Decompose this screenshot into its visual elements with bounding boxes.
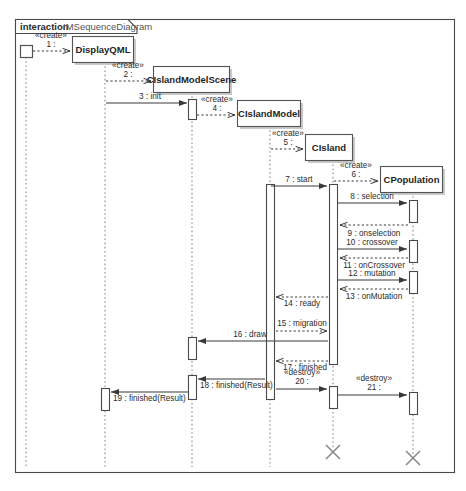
message-5-label: 5 : (283, 138, 292, 147)
message-7-label: 7 : start (285, 175, 313, 184)
activation-cpopulation-destroy (410, 393, 418, 415)
message-2-stereotype: «create» (112, 61, 144, 70)
lifeline-label: CIslandModel (238, 108, 300, 119)
activation-cpopulation-mutation (410, 272, 418, 294)
lifeline-label: CIsland (312, 142, 347, 153)
message-4-stereotype: «create» (201, 95, 233, 104)
actor-square-icon (21, 46, 33, 58)
message-15-label: 15 : migration (277, 319, 327, 328)
message-18[interactable]: 18 : finished(Result) (198, 379, 273, 390)
message-8-label: 8 : selection (350, 192, 394, 201)
lifeline-label: DisplayQML (76, 44, 131, 55)
frame-name: IMSequenceDiagram (63, 21, 152, 32)
lifeline-head-cpopulation[interactable]: CPopulation (381, 167, 446, 196)
message-12-label: 12 : mutation (348, 269, 396, 278)
lifeline-head-actor[interactable] (21, 46, 33, 58)
message-13-label: 13 : onMutation (346, 292, 403, 301)
lifeline-head-cislandmodelscene[interactable]: CIslandModelScene (147, 67, 237, 96)
message-19-label: 19 : finished(Result) (113, 394, 186, 403)
message-9-label: 9 : onselection (348, 229, 401, 238)
sequence-diagram: interaction IMSequenceDiagram DisplayQML… (0, 0, 466, 491)
message-19[interactable]: 19 : finished(Result) (111, 392, 188, 403)
lifeline-head-cislandmodel[interactable]: CIslandModel (238, 101, 304, 130)
message-14-label: 14 : ready (284, 299, 321, 308)
message-6-label: 6 : (351, 170, 360, 179)
message-20-label: 20 : (295, 377, 309, 386)
activation-cisland-main (330, 185, 338, 365)
message-18-label: 18 : finished(Result) (200, 381, 273, 390)
message-3-label: 3 : init (139, 92, 162, 101)
activation-cpopulation-crossover (410, 241, 418, 263)
message-4-label: 4 : (212, 104, 221, 113)
activation-displayqml-finished (102, 389, 110, 411)
sequence-diagram-canvas: interaction IMSequenceDiagram DisplayQML… (0, 0, 466, 491)
message-1-stereotype: «create» (35, 31, 67, 40)
activation-cislandmodelscene-init (189, 100, 197, 120)
lifeline-label: CPopulation (384, 174, 440, 185)
message-6-stereotype: «create» (340, 161, 372, 170)
activation-cisland-destroy (330, 387, 338, 409)
message-5-stereotype: «create» (272, 129, 304, 138)
message-2-label: 2 : (123, 70, 132, 79)
message-14[interactable]: 14 : ready (276, 297, 328, 308)
message-16-label: 16 : draw (233, 330, 267, 339)
activation-cpopulation-selection (410, 201, 418, 223)
message-20-stereotype: «destroy» (284, 368, 320, 377)
activation-cislandmodel-main (267, 185, 275, 400)
lifeline-label: CIslandModelScene (147, 74, 237, 85)
message-1-label: 1 : (46, 40, 55, 49)
lifeline-head-cisland[interactable]: CIsland (306, 135, 356, 164)
activation-cislandmodelscene-finished (189, 376, 197, 400)
message-10-label: 10 : crossover (346, 238, 398, 247)
activation-cislandmodelscene-draw (189, 338, 197, 360)
message-21-stereotype: «destroy» (356, 374, 392, 383)
message-21-label: 21 : (367, 383, 381, 392)
